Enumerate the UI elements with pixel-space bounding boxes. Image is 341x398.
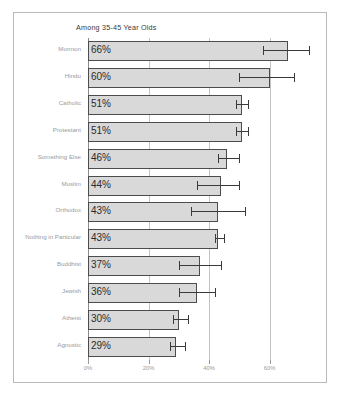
- error-bar-cap-low: [179, 288, 180, 297]
- category-label: Catholic: [59, 99, 81, 106]
- error-bar-cap-low: [215, 234, 216, 243]
- error-bar-cap-high: [309, 46, 310, 55]
- error-bar-cap-low: [179, 261, 180, 270]
- category-label: Nothing in Particular: [25, 233, 81, 240]
- bars-container: Mormon66%Hindu60%Catholic51%Protestant51…: [88, 38, 324, 360]
- error-bar-line: [215, 238, 224, 239]
- bar-row[interactable]: Buddhist37%: [88, 255, 324, 277]
- error-bar-line: [191, 211, 245, 212]
- category-label: Orthodox: [56, 206, 81, 213]
- error-bar-cap-high: [294, 73, 295, 82]
- x-axis: 0%20%40%60%: [88, 360, 324, 378]
- error-bar-cap-low: [173, 315, 174, 324]
- error-bar-cap-high: [245, 207, 246, 216]
- bar-row[interactable]: Protestant51%: [88, 121, 324, 143]
- bar[interactable]: [88, 41, 288, 61]
- bar-row[interactable]: Agnostic29%: [88, 336, 324, 358]
- bar-row[interactable]: Mormon66%: [88, 40, 324, 62]
- error-bar-line: [263, 50, 308, 51]
- bar[interactable]: [88, 68, 270, 88]
- category-label: Protestant: [53, 126, 81, 133]
- bar-row[interactable]: Muslim44%: [88, 175, 324, 197]
- category-label: Hindu: [65, 72, 81, 79]
- error-bar-cap-high: [188, 315, 189, 324]
- bar-row[interactable]: Hindu60%: [88, 67, 324, 89]
- chart-frame: Among 35-45 Year Olds Mormon66%Hindu60%C…: [13, 12, 327, 383]
- bar-value-label: 51%: [91, 125, 111, 137]
- x-axis-tick-label: 0%: [84, 365, 92, 371]
- bar-value-label: 46%: [91, 152, 111, 164]
- bar-row[interactable]: Atheist30%: [88, 309, 324, 331]
- error-bar-cap-high: [248, 100, 249, 109]
- category-label: Muslim: [61, 180, 81, 187]
- error-bar-cap-low: [191, 207, 192, 216]
- error-bar-line: [236, 131, 248, 132]
- category-label: Agnostic: [57, 341, 81, 348]
- error-bar-line: [170, 346, 185, 347]
- bar-value-label: 43%: [91, 205, 111, 217]
- error-bar-cap-low: [236, 100, 237, 109]
- error-bar-cap-high: [215, 288, 216, 297]
- error-bar-line: [236, 104, 248, 105]
- error-bar-line: [179, 292, 215, 293]
- bar[interactable]: [88, 95, 242, 115]
- category-label: Something Else: [38, 153, 81, 160]
- x-axis-tick: [209, 360, 210, 364]
- bar-value-label: 51%: [91, 98, 111, 110]
- chart-plot-area: Among 35-45 Year Olds Mormon66%Hindu60%C…: [14, 13, 326, 382]
- error-bar-line: [173, 319, 188, 320]
- error-bar-cap-low: [236, 127, 237, 136]
- bar-value-label: 43%: [91, 232, 111, 244]
- x-axis-tick-label: 40%: [203, 365, 215, 371]
- error-bar-cap-low: [239, 73, 240, 82]
- category-label: Atheist: [62, 314, 81, 321]
- error-bar-cap-low: [170, 342, 171, 351]
- error-bar-cap-high: [185, 342, 186, 351]
- category-label: Jewish: [62, 287, 81, 294]
- x-axis-tick-label: 60%: [264, 365, 276, 371]
- bar-row[interactable]: Something Else46%: [88, 148, 324, 170]
- error-bar-cap-high: [239, 154, 240, 163]
- error-bar-cap-high: [248, 127, 249, 136]
- category-label: Mormon: [58, 45, 81, 52]
- bar-row[interactable]: Jewish36%: [88, 282, 324, 304]
- bar[interactable]: [88, 122, 242, 142]
- bar-row[interactable]: Catholic51%: [88, 94, 324, 116]
- error-bar-line: [218, 158, 239, 159]
- error-bar-cap-high: [221, 261, 222, 270]
- x-axis-tick: [88, 360, 89, 364]
- bar-value-label: 66%: [91, 44, 111, 56]
- bar-value-label: 30%: [91, 313, 111, 325]
- bar-value-label: 29%: [91, 340, 111, 352]
- error-bar-cap-high: [239, 181, 240, 190]
- error-bar-cap-low: [218, 154, 219, 163]
- error-bar-cap-low: [263, 46, 264, 55]
- bar-rows: Mormon66%Hindu60%Catholic51%Protestant51…: [88, 38, 324, 360]
- bar-value-label: 36%: [91, 286, 111, 298]
- x-axis-tick: [149, 360, 150, 364]
- x-axis-tick: [270, 360, 271, 364]
- error-bar-cap-low: [197, 181, 198, 190]
- error-bar-line: [197, 185, 239, 186]
- error-bar-line: [179, 265, 221, 266]
- bar-row[interactable]: Nothing in Particular43%: [88, 228, 324, 250]
- bar-row[interactable]: Orthodox43%: [88, 201, 324, 223]
- x-axis-tick-label: 20%: [143, 365, 155, 371]
- error-bar-line: [239, 77, 293, 78]
- category-label: Buddhist: [57, 260, 81, 267]
- bar-value-label: 60%: [91, 71, 111, 83]
- chart-title: Among 35-45 Year Olds: [76, 23, 157, 32]
- error-bar-cap-high: [224, 234, 225, 243]
- bar-value-label: 44%: [91, 179, 111, 191]
- bar-value-label: 37%: [91, 259, 111, 271]
